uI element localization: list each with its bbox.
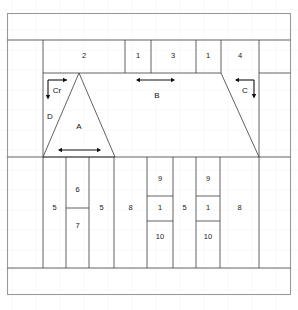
bottom-band bbox=[43, 157, 259, 268]
bottom-label-5-mid: 5 bbox=[99, 203, 103, 212]
top-band-labels: 2 1 3 1 4 bbox=[82, 51, 242, 60]
outer-frame bbox=[8, 14, 291, 295]
label-b: B bbox=[154, 91, 159, 100]
bottom-label-1-right: 1 bbox=[206, 203, 210, 212]
bottom-label-6: 6 bbox=[75, 185, 79, 194]
figure-canvas: 2 1 3 1 4 bbox=[0, 0, 298, 310]
top-band bbox=[43, 40, 291, 73]
bottom-label-10-right: 10 bbox=[204, 232, 212, 241]
bottom-label-8-right: 8 bbox=[237, 203, 241, 212]
background-grid bbox=[0, 0, 298, 310]
top-cell-label-2: 3 bbox=[171, 51, 175, 60]
bottom-label-10-left: 10 bbox=[156, 232, 164, 241]
bottom-label-5-left: 5 bbox=[52, 203, 56, 212]
top-cell-label-0: 2 bbox=[82, 51, 86, 60]
bottom-label-5-right: 5 bbox=[182, 203, 186, 212]
band-separators bbox=[8, 40, 291, 268]
top-cell-label-4: 4 bbox=[238, 51, 242, 60]
label-cr: Cr bbox=[53, 86, 62, 95]
label-a: A bbox=[76, 122, 82, 131]
bottom-label-9-left: 9 bbox=[158, 174, 162, 183]
label-d: D bbox=[47, 112, 53, 121]
trapezoid-shape bbox=[221, 73, 259, 157]
middle-band-labels: Cr D B C A bbox=[47, 86, 248, 131]
bottom-label-1-left: 1 bbox=[158, 203, 162, 212]
dimension-arrows bbox=[46, 78, 256, 152]
bottom-label-8-left: 8 bbox=[128, 203, 132, 212]
label-c: C bbox=[242, 86, 248, 95]
diagram-svg-wrapper: 2 1 3 1 4 bbox=[0, 0, 298, 310]
top-cell-label-3: 1 bbox=[206, 51, 210, 60]
bottom-label-9-right: 9 bbox=[206, 174, 210, 183]
bottom-label-7: 7 bbox=[75, 221, 79, 230]
top-cell-label-1: 1 bbox=[136, 51, 140, 60]
